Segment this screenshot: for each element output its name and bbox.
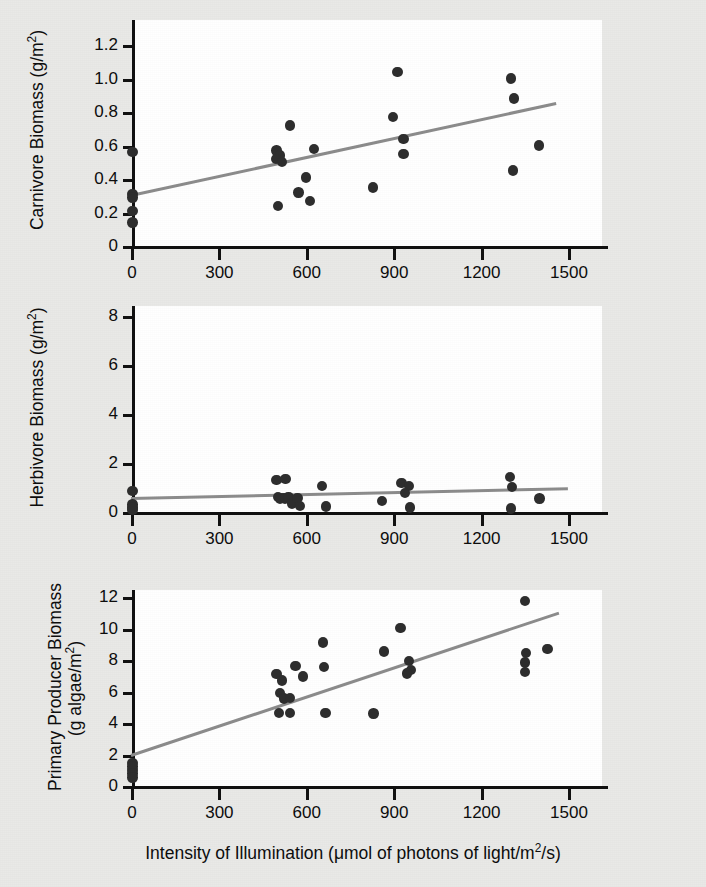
data-point (320, 708, 330, 718)
data-point (392, 67, 402, 77)
y-tick-label-3-0: 0 (60, 777, 118, 794)
data-point (388, 112, 398, 122)
x-tick-label-1-2: 600 (266, 264, 348, 281)
x-tick-label-3-1: 300 (178, 804, 260, 821)
plot-area-1 (132, 20, 602, 246)
data-point (287, 498, 297, 508)
y-tick-2-1 (123, 463, 133, 466)
y-tick-label-2-3: 6 (60, 356, 118, 373)
x-tick-2-4 (481, 515, 484, 526)
y-tick-label-2-1: 2 (60, 454, 118, 471)
data-point (542, 644, 552, 654)
y-tick-label-2-2: 4 (60, 405, 118, 422)
data-point (127, 768, 137, 778)
data-point (318, 637, 328, 647)
x-tick-label-1-0: 0 (91, 264, 173, 281)
x-tick-label-3-5: 1500 (528, 804, 610, 821)
data-point (317, 481, 327, 491)
y-tick-1-5 (123, 79, 133, 82)
data-point (395, 623, 405, 633)
x-axis-line-2 (126, 512, 608, 515)
y-tick-label-3-3: 6 (60, 683, 118, 700)
data-point (509, 93, 519, 103)
x-tick-2-2 (306, 515, 309, 526)
y-tick-label-3-2: 4 (60, 714, 118, 731)
y-axis-label-2: Herbivore Biomass (g/m2) (28, 300, 48, 515)
y-tick-2-3 (123, 365, 133, 368)
data-point (274, 708, 284, 718)
trendline-3 (131, 611, 560, 756)
x-tick-1-1 (218, 249, 221, 260)
panel-1: 00.20.40.60.81.01.2030060090012001500Car… (0, 0, 706, 887)
data-point (127, 217, 137, 227)
x-tick-1-4 (481, 249, 484, 260)
data-point (292, 493, 302, 503)
x-tick-3-4 (481, 789, 484, 800)
x-tick-label-1-5: 1500 (528, 264, 610, 281)
y-tick-label-1-0: 0 (60, 237, 118, 254)
plot-area-3 (132, 590, 602, 786)
data-point (280, 493, 290, 503)
data-point (508, 165, 518, 175)
data-point (321, 501, 331, 511)
y-tick-1-4 (123, 112, 133, 115)
data-point (405, 502, 415, 512)
data-point (309, 144, 319, 154)
data-point (279, 693, 289, 703)
trendline-1 (131, 102, 557, 197)
data-point (127, 147, 137, 157)
x-tick-1-5 (568, 249, 571, 260)
y-axis-line-1 (132, 20, 135, 249)
data-point (275, 494, 285, 504)
data-point (507, 482, 517, 492)
data-point (285, 120, 295, 130)
y-axis-line-3 (132, 590, 135, 789)
x-tick-label-1-3: 900 (353, 264, 435, 281)
data-point (534, 140, 544, 150)
data-point (506, 503, 516, 513)
x-tick-2-5 (568, 515, 571, 526)
data-point (400, 488, 410, 498)
data-point (127, 772, 137, 782)
data-point (319, 662, 329, 672)
data-point (277, 675, 287, 685)
y-tick-3-3 (123, 692, 133, 695)
x-tick-label-1-4: 1200 (441, 264, 523, 281)
y-tick-label-3-4: 8 (60, 651, 118, 668)
y-tick-3-5 (123, 629, 133, 632)
data-point (285, 693, 295, 703)
trendline-2 (131, 487, 568, 500)
figure-container: 00.20.40.60.81.01.2030060090012001500Car… (0, 0, 706, 887)
y-tick-3-1 (123, 755, 133, 758)
y-tick-label-1-6: 1.2 (60, 36, 118, 53)
y-tick-1-1 (123, 213, 133, 216)
y-tick-label-2-4: 8 (60, 307, 118, 324)
x-tick-label-2-4: 1200 (441, 530, 523, 547)
data-point (295, 501, 305, 511)
y-tick-1-6 (123, 45, 133, 48)
y-tick-label-3-5: 10 (60, 620, 118, 637)
data-point (377, 496, 387, 506)
data-point (275, 688, 285, 698)
x-axis-label: Intensity of Illumination (μmol of photo… (0, 843, 706, 864)
data-point (127, 499, 137, 509)
x-tick-2-1 (218, 515, 221, 526)
data-point (271, 145, 281, 155)
x-tick-1-3 (393, 249, 396, 260)
data-point (305, 196, 315, 206)
y-tick-1-2 (123, 179, 133, 182)
plot-area-2 (132, 306, 602, 512)
data-point (506, 73, 516, 83)
data-point (293, 187, 303, 197)
data-point (398, 149, 408, 159)
data-point (404, 656, 414, 666)
x-tick-2-3 (393, 515, 396, 526)
y-tick-label-1-2: 0.4 (60, 170, 118, 187)
data-point (290, 661, 300, 671)
data-point (127, 192, 137, 202)
y-tick-3-4 (123, 660, 133, 663)
data-point (368, 182, 378, 192)
data-point (368, 708, 378, 718)
data-point (127, 486, 137, 496)
x-tick-label-3-4: 1200 (441, 804, 523, 821)
